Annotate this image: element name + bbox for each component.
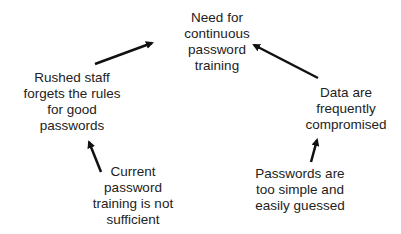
arrow-bottom-right-to-right bbox=[311, 140, 317, 162]
node-line: continuous bbox=[167, 26, 267, 42]
node-line: password bbox=[167, 42, 267, 58]
node-line: Current bbox=[78, 164, 188, 180]
node-line: password bbox=[78, 180, 188, 196]
node-line: frequently bbox=[296, 101, 396, 117]
node-line: Rushed staff bbox=[12, 70, 132, 86]
node-line: easily guessed bbox=[240, 198, 360, 214]
node-line: Data are bbox=[296, 85, 396, 101]
node-current-training: Current password training is not suffici… bbox=[78, 164, 188, 228]
node-data-compromised: Data are frequently compromised bbox=[296, 85, 396, 133]
node-line: Need for bbox=[167, 10, 267, 26]
node-line: passwords bbox=[12, 118, 132, 134]
node-passwords-simple: Passwords are too simple and easily gues… bbox=[240, 166, 360, 214]
node-line: Passwords are bbox=[240, 166, 360, 182]
node-line: compromised bbox=[296, 117, 396, 133]
node-line: too simple and bbox=[240, 182, 360, 198]
node-line: for good bbox=[12, 102, 132, 118]
node-line: forgets the rules bbox=[12, 86, 132, 102]
node-line: sufficient bbox=[78, 212, 188, 228]
node-line: training is not bbox=[78, 196, 188, 212]
node-line: training bbox=[167, 58, 267, 74]
node-rushed-staff: Rushed staff forgets the rules for good … bbox=[12, 70, 132, 134]
arrow-left-to-top bbox=[95, 43, 152, 64]
node-need-for-training: Need for continuous password training bbox=[167, 10, 267, 74]
